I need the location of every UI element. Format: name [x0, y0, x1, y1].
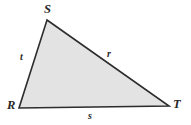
- side-label-t: t: [20, 52, 23, 62]
- triangle-shape: [19, 20, 169, 108]
- vertex-label-t: T: [173, 98, 181, 111]
- triangle-figure: S R T t r s: [0, 0, 191, 125]
- triangle-svg: [0, 0, 191, 125]
- side-label-r: r: [107, 49, 111, 59]
- side-label-s: s: [88, 111, 92, 121]
- vertex-label-r: R: [7, 99, 15, 112]
- vertex-label-s: S: [44, 3, 51, 16]
